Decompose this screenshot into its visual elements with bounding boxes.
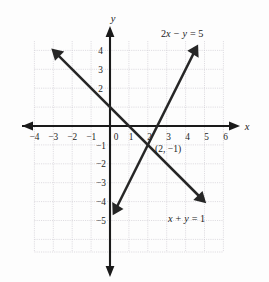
x-tick-label: 5 — [204, 132, 209, 142]
x-tick-label: 0 — [114, 132, 119, 142]
y-tick-label: −1 — [96, 141, 106, 151]
x-tick-label: −4 — [29, 132, 39, 142]
y-tick-label: −5 — [96, 216, 106, 226]
x-axis-arrow-right-icon — [229, 122, 240, 131]
y-axis-arrow-down-icon — [106, 266, 115, 277]
y-tick-label: 2 — [98, 84, 103, 94]
x-tick-label: 4 — [185, 132, 190, 142]
x-tick-label: −3 — [48, 132, 58, 142]
x-tick-labels: −4 −3 −2 −1 0 1 2 3 4 5 6 — [29, 132, 228, 142]
y-tick-label: −4 — [96, 197, 106, 207]
intersection-point-label: (2, −1) — [155, 143, 181, 155]
x-tick-label: −2 — [67, 132, 77, 142]
x-tick-label: 3 — [166, 132, 171, 142]
y-tick-labels: 4 3 2 −1 −2 −3 −4 −5 — [96, 46, 106, 226]
y-axis-arrow-up-icon — [106, 26, 115, 37]
y-tick-label: −3 — [96, 178, 106, 188]
equation-label-line2: x+y= 1 — [167, 213, 205, 224]
line-segment — [116, 50, 195, 209]
y-tick-label: 3 — [98, 65, 103, 75]
x-axis-label: x — [244, 121, 250, 132]
equation-label-line1: 2x−y= 5 — [161, 28, 203, 39]
x-tick-label: 6 — [223, 132, 228, 142]
x-tick-label: 1 — [129, 132, 134, 142]
x-tick-label: −1 — [86, 132, 96, 142]
coordinate-graph-figure: x y −4 −3 −2 −1 0 1 2 3 4 5 6 4 3 2 −1 −… — [0, 0, 269, 282]
x-axis-arrow-left-icon — [22, 122, 33, 131]
y-tick-label: −2 — [96, 159, 106, 169]
graph-canvas: x y −4 −3 −2 −1 0 1 2 3 4 5 6 4 3 2 −1 −… — [0, 0, 269, 282]
y-tick-label: 4 — [98, 46, 103, 56]
y-axis-label: y — [110, 13, 116, 24]
